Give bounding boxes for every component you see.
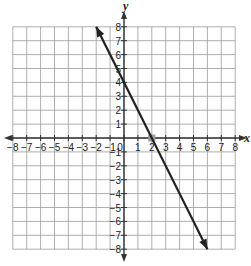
coordinate-plane: −8−7−6−5−4−3−2−1012345678−8−7−6−5−4−3−2−… bbox=[0, 0, 251, 266]
line-arrow-start-icon bbox=[96, 27, 104, 38]
y-tick-label: −1 bbox=[110, 147, 122, 158]
x-tick-label: 3 bbox=[163, 142, 169, 153]
y-tick-label: 2 bbox=[115, 105, 121, 116]
x-tick-label: 5 bbox=[191, 142, 197, 153]
x-tick-label: 6 bbox=[205, 142, 211, 153]
y-tick-label: 7 bbox=[115, 36, 121, 47]
x-tick-label: −3 bbox=[77, 142, 89, 153]
x-tick-label: 8 bbox=[232, 142, 238, 153]
x-tick-label: −7 bbox=[21, 142, 33, 153]
y-tick-label: −8 bbox=[110, 244, 122, 255]
y-tick-label: 8 bbox=[115, 22, 121, 33]
x-tick-label: −2 bbox=[90, 142, 102, 153]
y-tick-label: 4 bbox=[115, 77, 121, 88]
x-tick-label: −8 bbox=[7, 142, 19, 153]
y-tick-label: −6 bbox=[110, 216, 122, 227]
y-tick-label: 3 bbox=[115, 91, 121, 102]
x-tick-label: 1 bbox=[135, 142, 141, 153]
x-tick-label: −6 bbox=[35, 142, 47, 153]
y-tick-label: −2 bbox=[110, 161, 122, 172]
y-tick-label: −7 bbox=[110, 230, 122, 241]
line-arrow-end-icon bbox=[199, 238, 207, 249]
x-tick-label: 7 bbox=[219, 142, 225, 153]
x-tick-label: 4 bbox=[177, 142, 183, 153]
x-tick-label: −4 bbox=[63, 142, 75, 153]
y-axis-label: y bbox=[121, 0, 129, 13]
y-tick-label: −3 bbox=[110, 175, 122, 186]
x-tick-label: −5 bbox=[49, 142, 61, 153]
y-tick-label: −5 bbox=[110, 203, 122, 214]
x-axis-label: x bbox=[243, 131, 250, 145]
y-axis-down-arrow-icon bbox=[121, 254, 127, 262]
x-axis-left-arrow-icon bbox=[4, 135, 12, 141]
y-tick-label: 6 bbox=[115, 50, 121, 61]
y-tick-label: 1 bbox=[115, 119, 121, 130]
y-tick-label: −4 bbox=[110, 189, 122, 200]
